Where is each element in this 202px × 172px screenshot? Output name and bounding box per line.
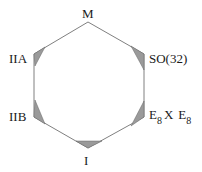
- shade-iib: [34, 100, 45, 124]
- shade-so32: [131, 46, 144, 70]
- shade-iia: [34, 47, 45, 66]
- duality-hexagon-diagram: M SO(32) E8XE8 I IIB IIA: [0, 0, 202, 172]
- shade-i: [76, 141, 102, 148]
- label-e8xe8: E8XE8: [149, 107, 191, 126]
- label-so32: SO(32): [149, 51, 187, 66]
- hexagon-outline: [34, 22, 144, 148]
- label-m: M: [82, 6, 94, 21]
- label-iib: IIB: [9, 109, 27, 124]
- label-i: I: [84, 153, 88, 168]
- label-iia: IIA: [9, 51, 28, 66]
- shade-e8xe8: [131, 101, 144, 126]
